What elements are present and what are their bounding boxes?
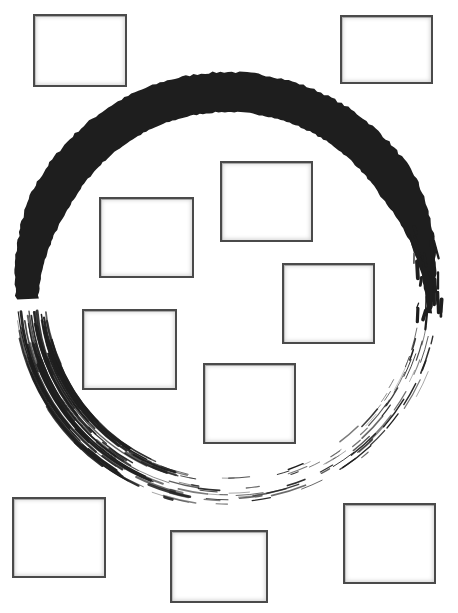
enso-fleck [435, 248, 436, 254]
enso-dry-brush-dash [340, 426, 358, 441]
enso-fleck [425, 297, 426, 316]
frame-10 [343, 503, 436, 584]
enso-fleck [424, 254, 426, 266]
frame-3 [220, 161, 313, 242]
enso-dry-brush-dash [192, 485, 199, 486]
enso-dry-brush-dash [382, 394, 387, 402]
frame-6 [82, 309, 177, 390]
enso-fleck [441, 299, 442, 312]
enso-dry-brush-dash [169, 481, 198, 488]
enso-dry-brush-dash [343, 446, 371, 468]
enso-dry-brush-dash [410, 370, 415, 381]
frame-7 [203, 363, 296, 444]
enso-dry-brush-dash [394, 366, 406, 390]
enso-dry-brush-dash [309, 462, 319, 467]
enso-dry-brush-dash [181, 476, 196, 479]
enso-dry-brush-dash [386, 388, 397, 406]
frame-2 [340, 15, 433, 84]
enso-dry-brush-dash [288, 467, 307, 474]
enso-dry-brush-dash [404, 384, 416, 405]
enso-dry-brush-dash [333, 452, 353, 466]
enso-dry-brush-dash [333, 451, 346, 460]
frame-9 [170, 530, 268, 603]
enso-fleck [435, 279, 436, 291]
enso-dry-brush-dash [394, 372, 405, 392]
enso-dry-brush-dash [382, 405, 390, 416]
enso-dry-brush-dash [252, 498, 270, 501]
enso-dry-brush-dash [410, 350, 414, 360]
enso-fleck [414, 227, 416, 234]
enso-dry-brush-dash [394, 392, 406, 410]
enso-fleck [438, 292, 439, 312]
enso-dry-brush-dash [362, 416, 383, 438]
enso-dry-brush-dash [229, 477, 250, 478]
enso-frames-canvas [0, 0, 458, 613]
enso-fleck [420, 277, 421, 285]
enso-dry-brush-dash [431, 336, 433, 343]
frame-5 [282, 263, 375, 344]
enso-dry-brush-dash [302, 480, 323, 489]
enso-fleck [417, 261, 418, 278]
enso-dry-brush-dash [330, 450, 341, 457]
enso-fleck [431, 242, 433, 262]
enso-dry-brush-dash [98, 426, 114, 440]
enso-dry-brush-dash [421, 348, 430, 373]
enso-fleck [417, 308, 418, 321]
frame-8 [12, 497, 106, 578]
enso-dry-brush-dash [389, 380, 394, 388]
frame-4 [99, 197, 194, 278]
enso-dry-brush-dash [253, 489, 286, 496]
enso-dry-brush-dash [304, 462, 311, 465]
enso-dry-brush-dash [229, 492, 249, 493]
frame-1 [33, 14, 127, 87]
enso-dry-brush-dash [136, 477, 174, 492]
enso-dry-brush-dash [416, 341, 422, 360]
enso-dry-brush-dash [246, 486, 259, 488]
enso-dry-brush-dash [324, 457, 336, 464]
enso-dry-brush-dash [414, 360, 420, 375]
enso-fleck [420, 259, 421, 266]
enso-dry-brush-dash [277, 471, 289, 475]
enso-dry-brush-dash [422, 327, 426, 346]
